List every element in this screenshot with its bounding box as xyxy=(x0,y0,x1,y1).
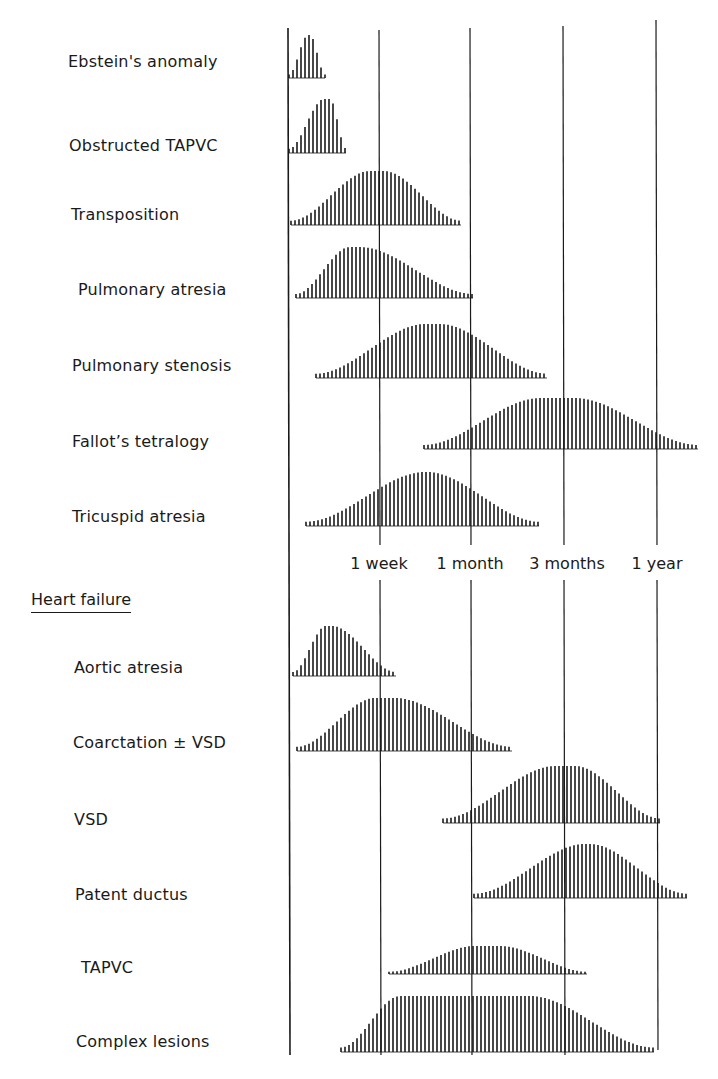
age-gridlines xyxy=(288,20,658,1055)
lesion-label-pulmonary-stenosis: Pulmonary stenosis xyxy=(72,356,232,375)
distribution-curve xyxy=(291,171,461,225)
lesion-label-complex-lesions: Complex lesions xyxy=(76,1032,210,1051)
lesion-label-tapvc: TAPVC xyxy=(81,958,133,977)
lesion-label-vsd: VSD xyxy=(74,810,108,829)
age-gridline xyxy=(564,580,565,1055)
distribution-curve xyxy=(443,766,660,823)
distribution-curve xyxy=(474,844,687,898)
tick-label-3-months: 3 months xyxy=(529,554,605,573)
age-gridline xyxy=(470,28,471,545)
age-gridline xyxy=(657,580,658,1050)
age-gridline xyxy=(563,26,564,545)
tick-label-1-year: 1 year xyxy=(632,554,683,573)
distribution-curve xyxy=(341,996,654,1052)
tick-label-1-month: 1 month xyxy=(436,554,503,573)
distribution-curve xyxy=(297,698,512,751)
distribution-curve xyxy=(289,99,346,153)
tick-label-1-week: 1 week xyxy=(350,554,407,573)
lesion-label-patent-ductus: Patent ductus xyxy=(75,885,188,904)
section-title-heart-failure: Heart failure xyxy=(31,590,131,613)
birth-axis-line xyxy=(288,28,290,1055)
lesion-label-coarctation-vsd: Coarctation ± VSD xyxy=(73,733,226,752)
distribution-curves xyxy=(289,35,698,1052)
lesion-label-obstructed-tapvc: Obstructed TAPVC xyxy=(69,136,218,155)
lesion-label-fallots-tetralogy: Fallot’s tetralogy xyxy=(72,432,209,451)
distribution-curve xyxy=(289,35,325,78)
age-at-presentation-chart xyxy=(0,0,718,1079)
distribution-curve xyxy=(306,472,539,526)
lesion-label-pulmonary-atresia: Pulmonary atresia xyxy=(78,280,227,299)
lesion-label-aortic-atresia: Aortic atresia xyxy=(74,658,183,677)
age-gridline xyxy=(380,580,381,1055)
lesion-label-tricuspid-atresia: Tricuspid atresia xyxy=(72,507,206,526)
lesion-label-ebsteins-anomaly: Ebstein's anomaly xyxy=(68,52,218,71)
lesion-label-transposition: Transposition xyxy=(71,205,179,224)
distribution-curve xyxy=(389,946,587,974)
age-gridline xyxy=(656,20,657,545)
distribution-curve xyxy=(316,324,547,378)
distribution-curve xyxy=(296,247,473,298)
